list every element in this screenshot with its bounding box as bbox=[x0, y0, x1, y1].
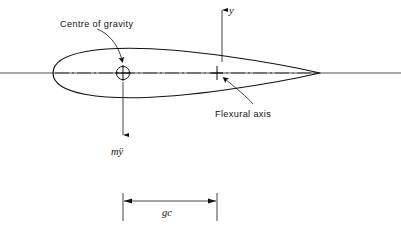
flexural-axis-label: Flexural axis bbox=[215, 109, 271, 119]
centre-of-gravity-leader bbox=[97, 29, 122, 60]
gc-dimension: gc bbox=[123, 193, 217, 221]
aerofoil-diagram: y mÿ Centre of gravity Flexural axis gc bbox=[0, 0, 401, 227]
flexural-axis-marker bbox=[211, 66, 223, 80]
inertia-force-label: mÿ bbox=[111, 146, 124, 157]
centre-of-gravity-label: Centre of gravity bbox=[60, 19, 133, 29]
diagram-canvas: y mÿ Centre of gravity Flexural axis gc bbox=[0, 0, 401, 227]
centre-of-gravity-marker bbox=[115, 65, 131, 81]
y-axis-label: y bbox=[228, 5, 234, 16]
flexural-axis-leader bbox=[225, 79, 253, 104]
gc-dimension-label: gc bbox=[162, 207, 172, 218]
